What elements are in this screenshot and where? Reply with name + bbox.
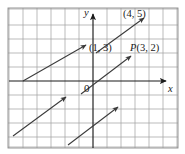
coordinate-plane-svg xyxy=(0,0,185,154)
label-origin: 0 xyxy=(84,83,90,94)
label-x-axis: x xyxy=(168,84,173,95)
label-P-coords: (3, 2) xyxy=(136,42,159,53)
label-point-P-3-2: P(3, 2) xyxy=(130,43,159,54)
vector-diagram-figure: (4, 5) (1, 3) P(3, 2) 0 x y xyxy=(0,0,185,154)
label-point-1-3: (1, 3) xyxy=(89,43,112,54)
label-point-4-5: (4, 5) xyxy=(123,9,146,20)
label-y-axis: y xyxy=(84,8,89,19)
